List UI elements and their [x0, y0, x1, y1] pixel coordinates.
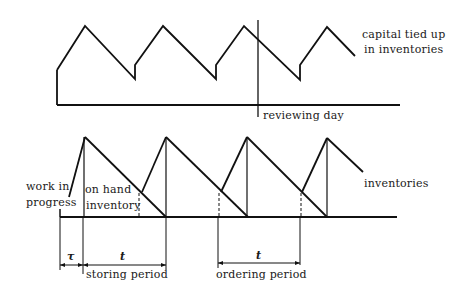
arrowhead	[78, 263, 83, 267]
arrowhead	[218, 261, 223, 265]
capital-label-line1: capital tied up	[362, 28, 445, 41]
work-in-progress-rise-3	[221, 137, 247, 192]
work-in-progress-rise-2	[142, 137, 166, 192]
reviewing-day-label: reviewing day	[263, 109, 344, 122]
work-in-progress-label-line2: progress	[26, 196, 77, 209]
ordering-period-label: ordering period	[216, 268, 307, 281]
capital-sawtooth	[57, 26, 355, 80]
on-hand-label-line1: on hand	[85, 183, 131, 196]
t-symbol-storing: t	[120, 250, 125, 263]
inventory-fall-3	[247, 137, 327, 217]
inventories-label: inventories	[364, 177, 429, 190]
inventory-fall-4	[327, 138, 363, 172]
inventory-fall-2	[166, 137, 248, 217]
tau-symbol: τ	[67, 250, 75, 263]
t-symbol-ordering: t	[256, 249, 261, 262]
inventory-diagram: capital tied up in inventories reviewing…	[0, 0, 463, 301]
arrowhead	[83, 263, 88, 267]
arrowhead	[60, 263, 65, 267]
arrowhead	[295, 261, 300, 265]
upper-chart	[57, 20, 400, 117]
storing-period-label: storing period	[86, 268, 168, 281]
work-in-progress-rise-1	[69, 137, 85, 197]
work-in-progress-label-line1: work in	[26, 180, 69, 193]
work-in-progress-rise-4	[302, 138, 327, 192]
arrowhead	[161, 263, 166, 267]
on-hand-label-line2: inventory	[86, 199, 141, 212]
capital-label-line2: in inventories	[364, 43, 443, 56]
